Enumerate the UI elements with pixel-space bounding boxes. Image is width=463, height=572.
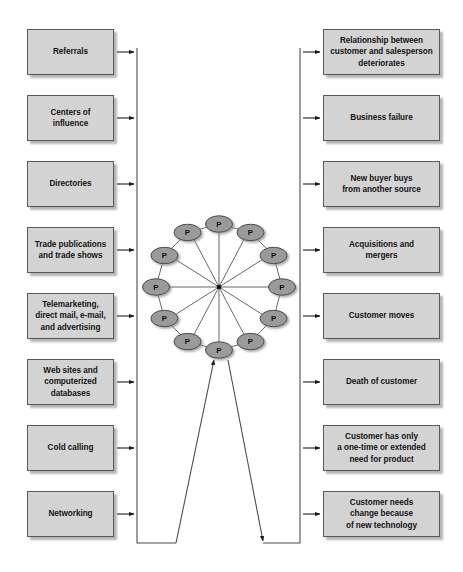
prospect-node[interactable]: P: [174, 224, 201, 240]
source-box-label: Cold calling: [31, 442, 110, 454]
prospect-node[interactable]: P: [237, 224, 264, 240]
prospect-node-label: P: [153, 283, 159, 292]
wheel-spoke: [219, 287, 244, 335]
wheel-hub: [217, 285, 222, 290]
source-box-label: Web sites andcomputerizeddatabases: [31, 365, 110, 400]
source-box-cold-calling[interactable]: Cold calling: [27, 425, 114, 471]
loss-box-label: Business failure: [327, 112, 436, 124]
source-box-telemarketing[interactable]: Telemarketing,direct mail, e-mail,and ad…: [27, 293, 114, 339]
left-feed-arrows: [117, 52, 134, 514]
wheel-outflow-arrow: [228, 360, 263, 541]
wheel-spoke: [175, 259, 219, 287]
loss-box-acquisitions-mergers[interactable]: Acquisitions andmergers: [323, 227, 440, 273]
source-box-directories[interactable]: Directories: [27, 161, 114, 207]
prospect-node-label: P: [185, 337, 191, 346]
loss-box-business-failure[interactable]: Business failure: [323, 95, 440, 141]
wheel-spoke: [219, 239, 244, 287]
prospect-node[interactable]: P: [237, 333, 264, 349]
prospect-node[interactable]: P: [206, 342, 233, 358]
wheel-spoke: [194, 287, 219, 335]
source-box-label: Directories: [31, 178, 110, 190]
wheel-spoke: [219, 287, 263, 315]
prospect-node-label: P: [271, 251, 277, 260]
wheel-spoke: [219, 259, 263, 287]
prospect-node[interactable]: P: [260, 310, 287, 326]
loss-box-label: Customer moves: [327, 310, 436, 322]
prospect-node[interactable]: P: [174, 333, 201, 349]
prospect-node-label: P: [279, 283, 285, 292]
wheel-spoke: [194, 239, 219, 287]
prospect-node-label: P: [216, 220, 222, 229]
prospect-node-label: P: [185, 228, 191, 237]
loss-box-customer-moves[interactable]: Customer moves: [323, 293, 440, 339]
prospect-node-label: P: [162, 314, 168, 323]
source-box-label: Telemarketing,direct mail, e-mail,and ad…: [31, 299, 110, 334]
source-box-centers-of-influence[interactable]: Centers ofinfluence: [27, 95, 114, 141]
source-box-networking[interactable]: Networking: [27, 491, 114, 537]
loss-box-label: New buyer buysfrom another source: [327, 173, 436, 196]
loss-box-label: Customer needschange becauseof new techn…: [327, 497, 436, 532]
loss-box-label: Death of customer: [327, 376, 436, 388]
prospect-node[interactable]: P: [269, 279, 296, 295]
source-box-referrals[interactable]: Referrals: [27, 29, 114, 75]
source-box-label: Centers ofinfluence: [31, 107, 110, 130]
flow-connectors: PPPPPPPPPPPP: [0, 0, 463, 572]
wheel-inflow-arrow: [176, 360, 214, 543]
prospect-node-label: P: [216, 346, 222, 355]
loss-box-relationship-deteriorates[interactable]: Relationship betweencustomer and salespe…: [323, 29, 440, 75]
prospect-node[interactable]: P: [151, 247, 178, 263]
source-box-web-sites[interactable]: Web sites andcomputerizeddatabases: [27, 359, 114, 405]
prospect-node[interactable]: P: [143, 279, 170, 295]
prospect-node-label: P: [248, 337, 254, 346]
diagram-canvas: PPPPPPPPPPPP Referrals Centers ofinfluen…: [0, 0, 463, 572]
prospect-node[interactable]: P: [206, 216, 233, 232]
wheel-spoke: [175, 287, 219, 315]
source-box-label: Referrals: [31, 46, 110, 58]
prospect-wheel: PPPPPPPPPPPP: [143, 216, 296, 358]
loss-box-label: Customer has onlya one-time or extendedn…: [327, 431, 436, 466]
prospect-node-label: P: [162, 251, 168, 260]
source-box-trade-publications[interactable]: Trade publicationsand trade shows: [27, 227, 114, 273]
source-box-label: Trade publicationsand trade shows: [31, 239, 110, 262]
source-box-label: Networking: [31, 508, 110, 520]
loss-box-death-of-customer[interactable]: Death of customer: [323, 359, 440, 405]
prospect-node[interactable]: P: [260, 247, 287, 263]
loss-box-needs-change-technology[interactable]: Customer needschange becauseof new techn…: [323, 491, 440, 537]
loss-box-one-time-need[interactable]: Customer has onlya one-time or extendedn…: [323, 425, 440, 471]
prospect-node[interactable]: P: [151, 310, 178, 326]
right-output-arrows: [303, 52, 320, 514]
prospect-node-label: P: [271, 314, 277, 323]
prospect-node-label: P: [248, 228, 254, 237]
loss-box-label: Relationship betweencustomer and salespe…: [327, 35, 436, 70]
loss-box-label: Acquisitions andmergers: [327, 239, 436, 262]
loss-box-new-buyer[interactable]: New buyer buysfrom another source: [323, 161, 440, 207]
